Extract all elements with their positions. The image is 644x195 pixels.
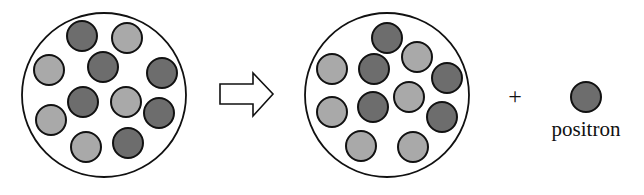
nucleon-dark	[432, 63, 462, 93]
nucleon-dark	[427, 102, 457, 132]
nucleon-dark	[113, 128, 143, 158]
nucleus-boundary	[22, 13, 186, 177]
nucleon-dark	[144, 98, 174, 128]
nucleon-dark	[68, 87, 98, 117]
nucleon-light	[111, 87, 141, 117]
reaction-arrow-icon	[220, 73, 273, 116]
nucleon-dark	[358, 92, 388, 122]
diagram-svg: + positron	[0, 0, 644, 195]
plus-sign: +	[508, 83, 522, 109]
nucleon-dark	[372, 23, 402, 53]
positron-emission-diagram: + positron	[0, 0, 644, 195]
nucleon-light	[317, 54, 347, 84]
nucleon-dark	[147, 58, 177, 88]
nucleon-dark	[359, 54, 389, 84]
positron-label: positron	[552, 117, 621, 141]
nucleon-light	[398, 132, 428, 162]
nucleon-light	[317, 97, 347, 127]
nucleon-dark	[88, 52, 118, 82]
nucleon-dark	[67, 21, 97, 51]
nucleon-light	[36, 105, 66, 135]
nucleus-before	[22, 13, 186, 177]
nucleon-light	[402, 42, 432, 72]
nucleon-light	[346, 131, 376, 161]
nucleon-light	[34, 55, 64, 85]
nucleon-light	[71, 132, 101, 162]
positron-particle	[571, 82, 601, 112]
nucleon-light	[394, 82, 424, 112]
positron-dark	[571, 82, 601, 112]
nucleon-light	[112, 23, 142, 53]
nucleus-after	[305, 13, 469, 177]
